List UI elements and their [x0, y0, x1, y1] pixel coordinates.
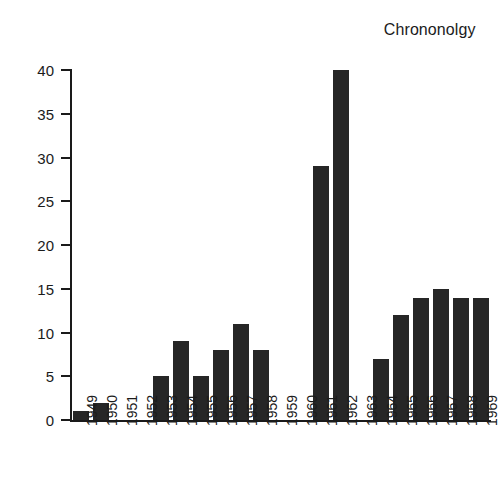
y-tick-label: 0 — [46, 412, 54, 429]
y-tick-mark — [61, 200, 70, 202]
y-tick-label: 35 — [37, 105, 54, 122]
x-tick-label: 1957 — [245, 395, 259, 426]
y-tick-label: 30 — [37, 149, 54, 166]
x-tick-label: 1969 — [485, 395, 499, 426]
x-tick-label: 1962 — [345, 395, 359, 426]
x-tick-label: 1950 — [105, 395, 119, 426]
y-tick-mark — [61, 244, 70, 246]
bar — [333, 70, 349, 420]
y-tick-label: 25 — [37, 193, 54, 210]
y-tick-label: 5 — [46, 368, 54, 385]
x-tick-label: 1965 — [405, 395, 419, 426]
x-tick-label: 1959 — [285, 395, 299, 426]
y-tick-mark — [61, 113, 70, 115]
y-tick-mark — [61, 69, 70, 71]
bar — [313, 166, 329, 420]
x-tick-label: 1958 — [265, 395, 279, 426]
x-tick-label: 1952 — [145, 395, 159, 426]
y-tick-label: 20 — [37, 237, 54, 254]
y-tick-label: 10 — [37, 324, 54, 341]
x-tick-label: 1956 — [225, 395, 239, 426]
y-tick-label: 40 — [37, 62, 54, 79]
x-tick-label: 1955 — [205, 395, 219, 426]
y-tick-mark — [61, 419, 70, 421]
x-tick-label: 1963 — [365, 395, 379, 426]
y-tick-label: 15 — [37, 280, 54, 297]
x-tick-label: 1966 — [425, 395, 439, 426]
x-tick-label: 1949 — [85, 395, 99, 426]
x-tick-label: 1964 — [385, 395, 399, 426]
y-tick-mark — [61, 288, 70, 290]
y-tick-mark — [61, 375, 70, 377]
chart-figure: Chrononolgy Number of Explosions 0510152… — [0, 0, 499, 492]
x-tick-label: 1953 — [165, 395, 179, 426]
y-axis-title: Number of Explosions — [9, 420, 29, 492]
y-tick-mark — [61, 332, 70, 334]
plot-area: 0510152025303540 — [70, 70, 490, 420]
x-tick-label: 1967 — [445, 395, 459, 426]
x-tick-label: 1961 — [325, 395, 339, 426]
x-tick-label: 1960 — [305, 395, 319, 426]
x-tick-label: 1968 — [465, 395, 479, 426]
y-tick-mark — [61, 157, 70, 159]
x-tick-label: 1951 — [125, 395, 139, 426]
chart-title: Chrononolgy — [383, 20, 475, 40]
x-tick-label: 1954 — [185, 395, 199, 426]
